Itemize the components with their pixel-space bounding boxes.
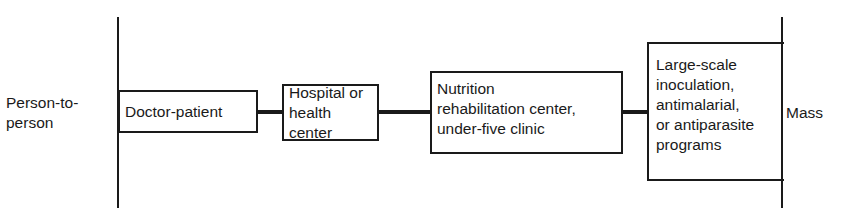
node-label: Hospital or health center xyxy=(289,83,377,143)
node-doctor-patient: Doctor-patient xyxy=(118,90,258,133)
node-hospital: Hospital or health center xyxy=(282,84,379,141)
connector-doctor-hospital xyxy=(257,110,283,114)
node-large-scale: Large-scale inoculation, antimalarial, o… xyxy=(647,42,784,181)
node-label: Doctor-patient xyxy=(125,102,222,122)
right-boundary-line xyxy=(781,17,783,208)
node-label: Large-scale inoculation, antimalarial, o… xyxy=(656,55,754,155)
right-end-label: Mass xyxy=(786,103,823,123)
node-nutrition: Nutrition rehabilitation center, under-f… xyxy=(430,71,623,154)
left-end-label: Person-to- person xyxy=(6,93,78,133)
connector-nutrition-largescale xyxy=(622,110,648,114)
node-label: Nutrition rehabilitation center, under-f… xyxy=(437,79,576,139)
connector-hospital-nutrition xyxy=(378,110,431,114)
